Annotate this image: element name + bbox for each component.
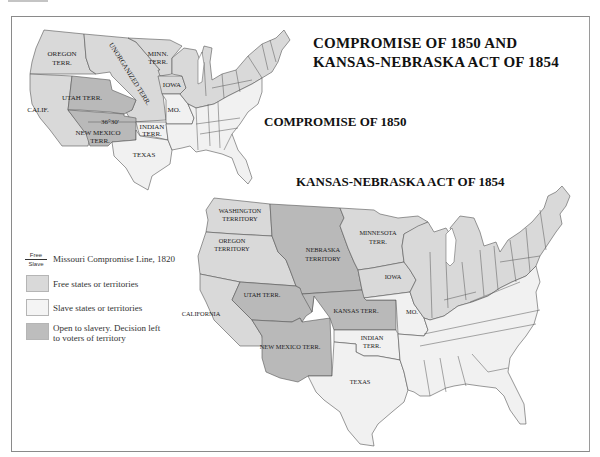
swatch-free	[26, 275, 49, 292]
map-compromise-1850: OREGON TERR. UNORGANIZED TERR. MINN. TER…	[27, 30, 290, 190]
title-line-1: COMPROMISE OF 1850 AND	[313, 34, 559, 53]
svg-text:TERR.: TERR.	[369, 238, 387, 245]
label-nebraska: NEBRASKA	[306, 246, 341, 253]
label-new-mexico-1854: NEW MEXICO TERR.	[260, 343, 321, 350]
caption-compromise-1850: COMPROMISE OF 1850	[264, 114, 407, 130]
label-minn-1850: MINN.	[148, 50, 169, 58]
label-mo-1854: MO.	[406, 308, 418, 315]
title-line-2: KANSAS-NEBRASKA ACT OF 1854	[313, 53, 559, 72]
label-new-mexico-1850: NEW MEXICO	[75, 129, 120, 137]
label-utah-1854: UTAH TERR.	[244, 291, 281, 298]
label-oregon-1854: OREGON	[219, 237, 246, 244]
legend-label-slave: Slave states or territories	[53, 303, 142, 313]
free-slave-line-symbol: Free Slave	[25, 251, 47, 268]
label-texas-1850: TEXAS	[133, 151, 156, 159]
caption-kansas-nebraska-1854: KANSAS-NEBRASKA ACT OF 1854	[296, 174, 504, 190]
label-washington: WASHINGTON	[219, 207, 262, 214]
svg-text:TERRITORY: TERRITORY	[305, 255, 341, 262]
svg-text:TERRITORY: TERRITORY	[222, 215, 258, 222]
svg-text:TERR.: TERR.	[90, 137, 110, 145]
legend-label-open: Open to slavery. Decision left	[53, 323, 160, 333]
svg-text:TERR.: TERR.	[148, 58, 168, 66]
map-title: COMPROMISE OF 1850 AND KANSAS-NEBRASKA A…	[313, 34, 559, 72]
swatch-open	[26, 323, 49, 340]
legend-label-open-2: to voters of territory	[53, 333, 126, 343]
label-texas-1854: TEXAS	[350, 378, 371, 385]
svg-text:TERR.: TERR.	[363, 342, 381, 349]
label-iowa-1850: IOWA	[163, 81, 181, 89]
label-36-30: 36°30'	[101, 118, 119, 126]
label-kansas: KANSAS TERR.	[334, 307, 379, 314]
svg-text:TERR.: TERR.	[142, 130, 162, 138]
label-iowa-1854: IOWA	[385, 273, 402, 280]
svg-text:TERRITORY: TERRITORY	[214, 245, 250, 252]
label-utah-1850: UTAH TERR.	[62, 94, 102, 102]
svg-text:TERR.: TERR.	[52, 59, 72, 67]
label-oregon-1850: OREGON	[47, 50, 76, 58]
label-mo-1850: MO.	[167, 106, 180, 114]
map-kansas-nebraska-1854: WASHINGTON TERRITORY OREGON TERRITORY NE…	[182, 186, 570, 446]
region-new-mexico-terr-1854	[252, 318, 332, 382]
swatch-slave	[26, 299, 49, 316]
label-california: CALIFORNIA	[182, 310, 221, 317]
legend-label-free: Free states or territories	[53, 279, 138, 289]
legend-label-missouri-line: Missouri Compromise Line, 1820	[53, 254, 175, 264]
label-minnesota: MINNESOTA	[359, 229, 397, 236]
label-calif-1850: CALIF.	[27, 106, 49, 114]
label-indian-1854: INDIAN	[361, 334, 384, 341]
